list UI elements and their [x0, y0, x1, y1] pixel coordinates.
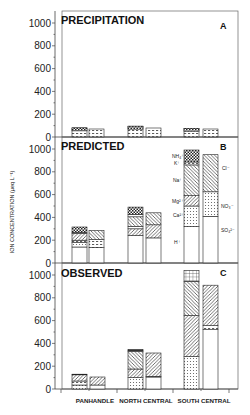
category-label-panhandle: PANHANDLE	[76, 397, 114, 404]
panel-c-observed: 0 200 400 600 800 1000 OBSERVED C	[29, 263, 238, 404]
panel-b-predicted: 0 200 400 600 800 1000 PREDICTED B	[29, 137, 238, 269]
panel-letter: A	[220, 21, 227, 31]
tick-label: 0	[45, 132, 51, 143]
tick-label: 1000	[29, 144, 52, 155]
tick-label: 800	[34, 166, 51, 177]
tick-label: 200	[34, 361, 51, 372]
panel-a-frame	[62, 11, 238, 137]
tick-label: 800	[34, 40, 51, 51]
ion-label-so4: SO₄²⁻	[221, 227, 235, 233]
tick-label: 1000	[29, 18, 52, 29]
category-label-north-central: NORTH CENTRAL	[119, 397, 172, 404]
panel-a-precipitation: 0 200 400 600 800 1000 PRECIPITATION A	[29, 11, 238, 143]
y-axis-label: ION CONCENTRATION (µeq L⁻¹)	[9, 170, 15, 253]
tick-label: 1000	[29, 270, 52, 281]
tick-label: 400	[34, 212, 51, 223]
ion-label-ca: Ca²⁺	[173, 212, 184, 218]
ion-concentration-chart: ION CONCENTRATION (µeq L⁻¹) 0 200 400 60…	[0, 0, 250, 415]
panel-letter: C	[220, 268, 227, 278]
tick-label: 200	[34, 235, 51, 246]
ion-label-na: Na⁺	[173, 177, 182, 183]
ion-label-cl: Cl⁻	[222, 165, 230, 171]
ion-label-nh4: NH₄⁺	[172, 153, 184, 159]
tick-label: 600	[34, 315, 51, 326]
panel-title: PREDICTED	[61, 140, 125, 152]
ion-label-h: H⁺	[174, 239, 181, 245]
tick-label: 600	[34, 189, 51, 200]
tick-label: 0	[45, 384, 51, 395]
category-label-south-central: SOUTH CENTRAL	[178, 397, 231, 404]
ion-label-k: K⁺	[174, 160, 180, 166]
tick-label: 800	[34, 292, 51, 303]
panel-title: OBSERVED	[61, 267, 123, 279]
panel-letter: B	[220, 142, 227, 152]
panel-title: PRECIPITATION	[61, 14, 144, 26]
tick-label: 200	[34, 109, 51, 120]
tick-label: 400	[34, 338, 51, 349]
tick-label: 600	[34, 63, 51, 74]
tick-label: 0	[45, 258, 51, 269]
ion-label-no3: NO₃⁻	[221, 203, 234, 209]
ion-label-mg: Mg²⁺	[172, 198, 184, 204]
tick-label: 400	[34, 86, 51, 97]
